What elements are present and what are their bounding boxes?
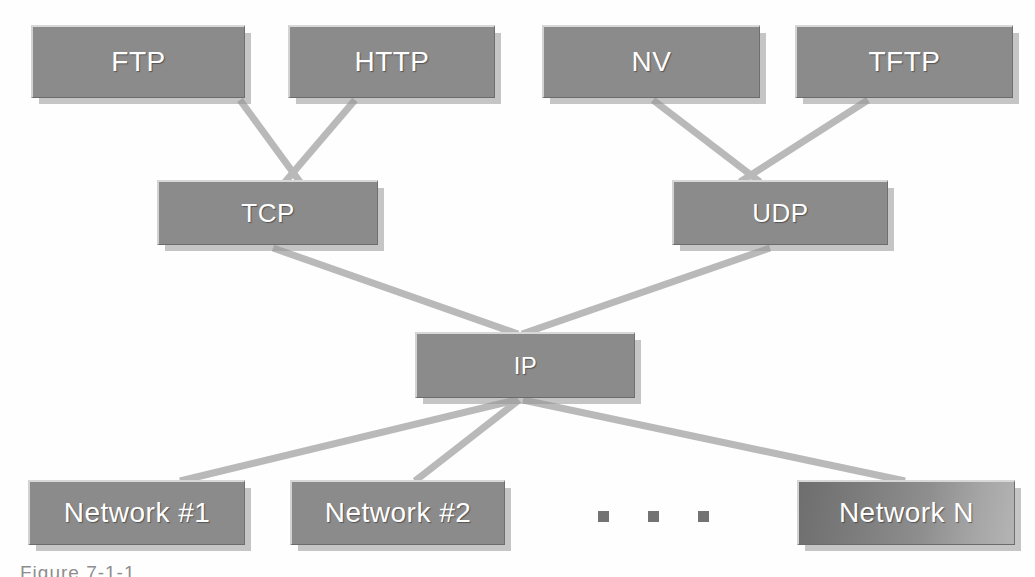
connector-udp-to-ip (522, 248, 770, 334)
ellipsis-dots (598, 511, 709, 522)
connector-tcp-to-ip (273, 248, 518, 334)
connector-nv-to-udp (653, 100, 760, 182)
ellipsis-dot (698, 511, 709, 522)
node-label-tftp: TFTP (869, 48, 941, 76)
node-ftp[interactable]: FTP (31, 25, 245, 98)
ellipsis-gap (609, 516, 648, 517)
node-label-nv: NV (632, 48, 672, 76)
figure-caption: Figure 7-1-1 (20, 562, 136, 577)
node-label-ftp: FTP (111, 48, 165, 76)
node-network-2[interactable]: Network #2 (290, 480, 505, 545)
diagram-canvas: FTP HTTP NV TFTP TCP UDP IP Network #1 N… (0, 0, 1035, 577)
node-label-ip: IP (514, 354, 538, 378)
connector-ip-to-netn (523, 400, 905, 481)
node-udp[interactable]: UDP (672, 180, 888, 245)
ellipsis-dot (648, 511, 659, 522)
node-label-udp: UDP (752, 200, 808, 226)
node-tftp[interactable]: TFTP (795, 25, 1013, 98)
node-network-n[interactable]: Network N (797, 480, 1015, 545)
node-http[interactable]: HTTP (288, 25, 495, 98)
ellipsis-dot (598, 511, 609, 522)
connector-http-to-tcp (285, 100, 355, 182)
node-label-network-1: Network #1 (64, 499, 211, 527)
ellipsis-gap (659, 516, 698, 517)
node-ip[interactable]: IP (415, 332, 635, 398)
node-network-1[interactable]: Network #1 (28, 480, 245, 545)
node-tcp[interactable]: TCP (157, 180, 378, 245)
node-label-tcp: TCP (241, 200, 295, 226)
node-label-network-n: Network N (839, 499, 974, 527)
connector-tftp-to-udp (740, 100, 868, 182)
node-label-network-2: Network #2 (325, 499, 472, 527)
node-nv[interactable]: NV (542, 25, 760, 98)
node-label-http: HTTP (354, 48, 429, 76)
